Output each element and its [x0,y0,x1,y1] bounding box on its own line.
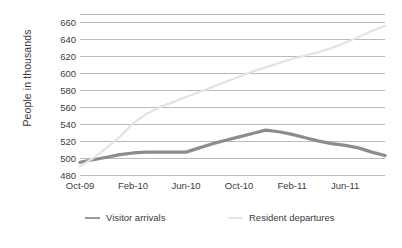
legend-label: Visitor arrivals [106,212,165,223]
y-axis-title: People in thousands [21,3,33,153]
legend-item-visitor-arrivals[interactable]: Visitor arrivals [85,212,165,223]
series-line-visitor-arrivals [80,130,385,162]
x-axis-tick-labels: Oct-09Feb-10Jun-10Oct-10Feb-11Jun-11 [80,180,385,194]
y-tick-label: 620 [40,51,76,62]
y-tick-label: 600 [40,68,76,79]
x-tick-label: Jun-11 [331,180,359,191]
x-tick-label: Oct-10 [225,180,254,191]
x-tick-label: Feb-11 [277,180,306,191]
plot-area [80,14,385,175]
y-tick-label: 640 [40,34,76,45]
y-tick-label: 660 [40,17,76,28]
x-tick-label: Jun-10 [172,180,201,191]
y-tick-label: 480 [40,170,76,181]
legend-swatch-icon [85,217,100,219]
y-axis-tick-labels: 480500520540560580600620640660 [40,14,76,175]
x-tick-label: Feb-10 [118,180,148,191]
chart-legend: Visitor arrivalsResident departures [0,212,402,232]
legend-label: Resident departures [249,212,335,223]
y-tick-label: 540 [40,119,76,130]
x-tick-label: Oct-09 [66,180,95,191]
y-tick-label: 500 [40,153,76,164]
y-tick-label: 580 [40,85,76,96]
y-tick-label: 560 [40,102,76,113]
line-chart: People in thousands 48050052054056058060… [0,0,402,248]
legend-swatch-icon [228,217,243,219]
y-tick-label: 520 [40,136,76,147]
series-layer [80,14,385,175]
legend-item-resident-departures[interactable]: Resident departures [228,212,335,223]
gridline [80,175,385,176]
